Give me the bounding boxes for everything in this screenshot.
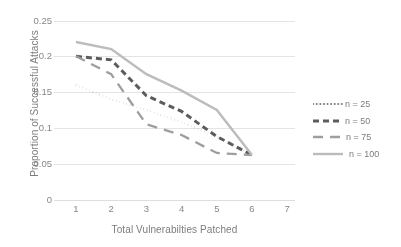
x-axis-title: Total Vulnerabilties Patched xyxy=(54,224,295,235)
legend-swatch xyxy=(313,116,343,126)
chart-figure: 00.050.10.150.20.25 1234567 Total Vulner… xyxy=(0,0,401,247)
legend-swatch xyxy=(313,149,343,159)
legend-label: n = 75 xyxy=(343,132,371,142)
legend-item: n = 75 xyxy=(313,129,399,146)
legend-label: n = 25 xyxy=(343,99,370,109)
x-tick-label: 5 xyxy=(208,203,226,214)
series-line xyxy=(76,56,252,155)
legend-item: n = 50 xyxy=(313,113,399,130)
series-line xyxy=(76,56,252,155)
legend-swatch xyxy=(313,132,343,142)
x-tick-label: 4 xyxy=(173,203,191,214)
legend-item: n = 25 xyxy=(313,96,399,113)
series-line xyxy=(76,42,252,155)
y-axis-title: Proportion of Successful Attacks xyxy=(29,9,40,199)
legend-item: n = 100 xyxy=(313,146,399,163)
x-tick-label: 1 xyxy=(67,203,85,214)
x-tick-label: 7 xyxy=(278,203,296,214)
x-tick-label: 3 xyxy=(137,203,155,214)
x-tick-label: 6 xyxy=(243,203,261,214)
x-tick-label: 2 xyxy=(102,203,120,214)
legend-swatch xyxy=(313,99,343,109)
legend-label: n = 50 xyxy=(343,116,370,126)
chart-legend: n = 25n = 50n = 75n = 100 xyxy=(313,96,399,162)
legend-label: n = 100 xyxy=(343,149,379,159)
